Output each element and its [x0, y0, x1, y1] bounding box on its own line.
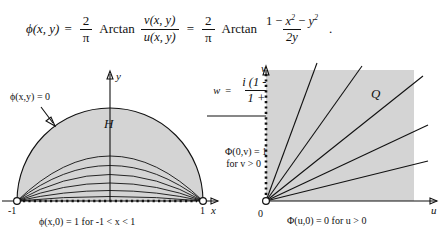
region-label-H: H: [104, 116, 113, 132]
potential-formula: ϕ(x, y) = 2 π Arctan v(x, y) u(x, y) = 2…: [26, 8, 332, 50]
coefficient2-numerator: 2: [202, 14, 215, 29]
arctan-label: Arctan: [99, 21, 134, 37]
u-boundary-condition-label: Φ(u,0) = 0 for u > 0: [287, 215, 366, 226]
half-disk-diagram: y x H ϕ(x,y) = 0 -1 1 ϕ(x,0) = 1 for -1 …: [0, 58, 225, 239]
formula-equals: =: [64, 21, 71, 37]
arc-pointer-arrowhead: [46, 117, 55, 126]
x-axis-label: x: [211, 204, 216, 216]
expr-x-exponent: 2: [291, 13, 295, 22]
coefficient2-denominator: π: [202, 29, 215, 45]
base-boundary-condition-label: ϕ(x,0) = 1 for -1 < x < 1: [39, 216, 135, 227]
expr-y-exponent: 2: [314, 13, 318, 22]
expression-numerator: 1 − x2 − y2: [263, 14, 321, 29]
formula-equals-2: =: [187, 21, 194, 37]
map-w: w: [213, 85, 220, 96]
tick-label-plus-one: 1: [200, 205, 205, 216]
tick-label-minus-one: -1: [8, 205, 16, 216]
region-label-Q: Q: [371, 86, 380, 102]
coefficient-numerator: 2: [80, 14, 93, 29]
vu-ratio-fraction: v(x, y) u(x, y): [141, 14, 179, 43]
arctan-label-2: Arctan: [222, 21, 257, 37]
formula-lhs: ϕ(x, y): [26, 21, 59, 37]
half-disk-svg: [0, 58, 225, 239]
ratio-denominator: u(x, y): [141, 29, 179, 44]
endpoint-minus-one: [14, 198, 21, 205]
arc-boundary-condition-label: ϕ(x,y) = 0: [10, 91, 50, 102]
u-axis-label: u: [431, 204, 437, 216]
origin-point: [263, 198, 270, 205]
v-boundary-condition-line2: for v > 0: [225, 158, 261, 169]
expr-minus-2: −: [298, 14, 305, 28]
expr-one: 1: [266, 14, 272, 28]
y-axis-label: y: [116, 70, 121, 82]
endpoint-plus-one: [200, 198, 207, 205]
coefficient-fraction-2: 2 π: [202, 14, 215, 44]
expression-fraction: 1 − x2 − y2 2y: [263, 14, 321, 44]
coefficient-denominator: π: [80, 29, 93, 45]
expr-minus-1: −: [275, 14, 282, 28]
v-boundary-condition-line1: Φ(0,v) = 1: [225, 146, 261, 157]
expression-denominator: 2y: [283, 29, 301, 44]
quadrant-region-fill: [266, 70, 414, 201]
quadrant-diagram: v u Q Φ(0,v) = 1 for v > 0 0 Φ(u,0) = 0 …: [225, 58, 447, 239]
v-axis-label: v: [261, 62, 266, 74]
origin-label: 0: [258, 208, 263, 219]
coefficient-fraction: 2 π: [80, 14, 93, 44]
ratio-numerator: v(x, y): [141, 14, 178, 28]
formula-period: .: [329, 21, 332, 37]
